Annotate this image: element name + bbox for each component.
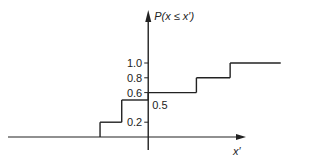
annotations: 0.5 bbox=[152, 99, 167, 111]
y-tick-label: 0.2 bbox=[127, 116, 142, 128]
x-axis-arrowhead bbox=[236, 134, 246, 140]
x-axis-label: x′ bbox=[232, 145, 242, 157]
y-tick-label: 0.8 bbox=[127, 72, 142, 84]
cdf-chart: 1.00.80.60.2 P(x ≤ x′) x′ 0.5 bbox=[0, 0, 318, 164]
axes: 1.00.80.60.2 P(x ≤ x′) x′ bbox=[8, 10, 246, 157]
y-tick-label: 0.6 bbox=[127, 87, 142, 99]
y-axis-arrowhead bbox=[145, 10, 151, 22]
y-axis-label: P(x ≤ x′) bbox=[154, 10, 194, 22]
y-ticks: 1.00.80.60.2 bbox=[127, 57, 148, 128]
annotation-label: 0.5 bbox=[152, 99, 167, 111]
y-tick-label: 1.0 bbox=[127, 57, 142, 69]
